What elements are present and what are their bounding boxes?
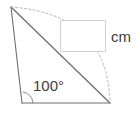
angle-arc-indicator [23,92,33,103]
triangle-left-side [11,7,22,103]
answer-input[interactable] [60,20,106,52]
unit-label-cm: cm [111,29,131,45]
triangle-diagram [0,0,136,117]
geometry-figure: cm 100° [0,0,136,117]
angle-label: 100° [33,78,64,94]
